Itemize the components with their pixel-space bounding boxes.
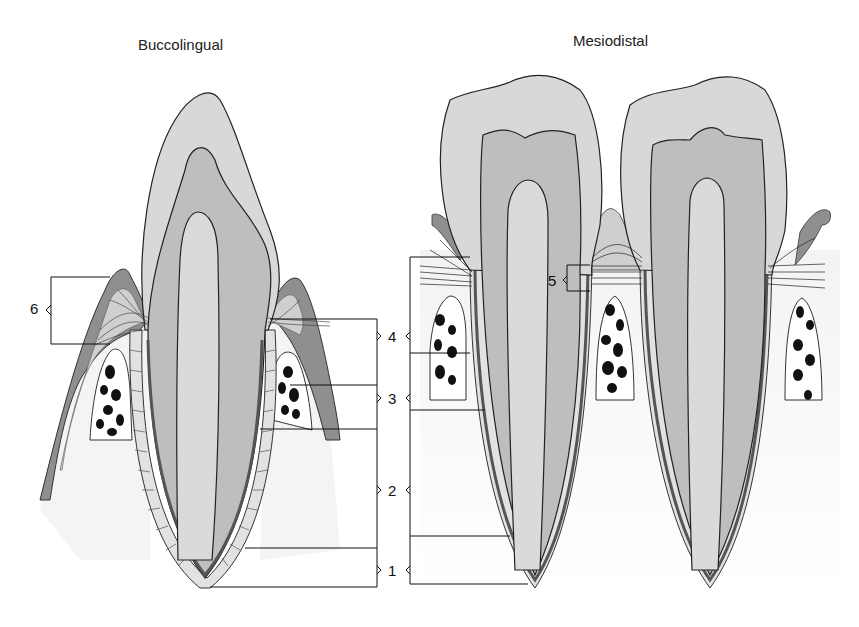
tooth-diagram bbox=[0, 0, 859, 627]
mesiodistal-teeth bbox=[420, 75, 840, 590]
label-3: 3 bbox=[388, 390, 396, 407]
label-5: 5 bbox=[548, 272, 556, 289]
buccolingual-tooth bbox=[40, 93, 340, 588]
label-4: 4 bbox=[388, 328, 396, 345]
label-2: 2 bbox=[388, 482, 396, 499]
label-6: 6 bbox=[30, 300, 38, 317]
label-1: 1 bbox=[388, 562, 396, 579]
